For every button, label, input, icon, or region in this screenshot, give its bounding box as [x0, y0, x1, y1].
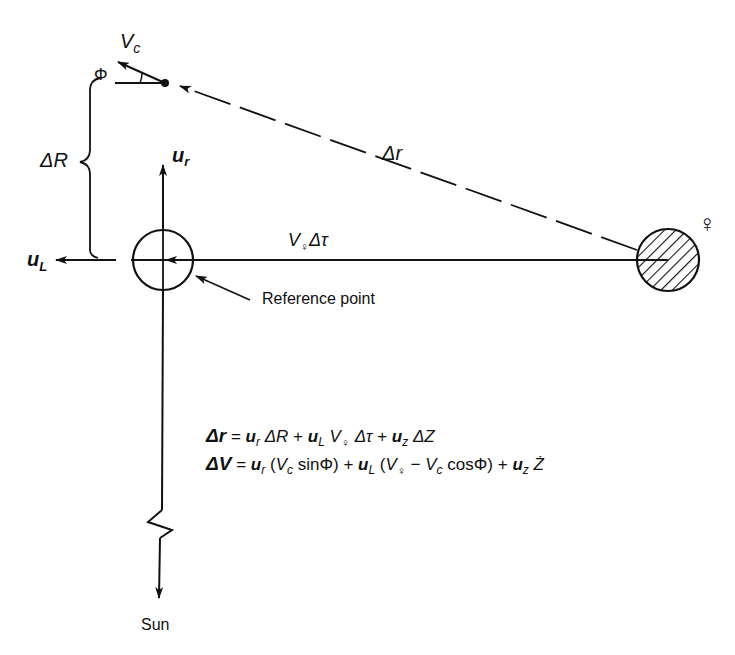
delta-R-label: ΔR: [39, 149, 68, 171]
spacecraft-point: [115, 62, 169, 87]
v-venus-dtau-label: V♀Δτ: [288, 230, 329, 254]
svg-text:ΔV = ur (V: ΔV = ur (Vc sinΦ) + uL (V♀ − Vc cosΦ) + …: [205, 453, 545, 479]
equation-1: Δr = ur ΔR + uL V♀ Δτ + uz ΔZ: [205, 425, 435, 451]
svg-text:Δr = ur Δ: Δr = ur ΔR + uL V♀ Δτ + uz ΔZ: [205, 425, 435, 451]
ur-label: ur: [172, 144, 190, 169]
diagram-canvas: Vc Φ ΔR Δr ur uL V♀Δτ ♀ Reference point …: [0, 0, 735, 655]
delta-R-brace: [80, 78, 100, 258]
sun-label: Sun: [141, 616, 169, 633]
equation-2: ΔV = ur (Vc sinΦ) + uL (V♀ − Vc cosΦ) + …: [205, 453, 545, 479]
reference-pointer: [196, 276, 250, 300]
sun-axis: [148, 290, 172, 598]
vc-label: Vc: [120, 30, 140, 56]
venus-body: [637, 229, 699, 291]
phi-angle-arc: [140, 73, 142, 83]
delta-r-label: Δr: [381, 142, 403, 164]
reference-point-label: Reference point: [262, 290, 376, 307]
uL-label: uL: [27, 248, 47, 274]
venus-symbol: ♀: [698, 210, 716, 237]
phi-label: Φ: [94, 65, 108, 84]
delta-r-line: [180, 86, 637, 250]
